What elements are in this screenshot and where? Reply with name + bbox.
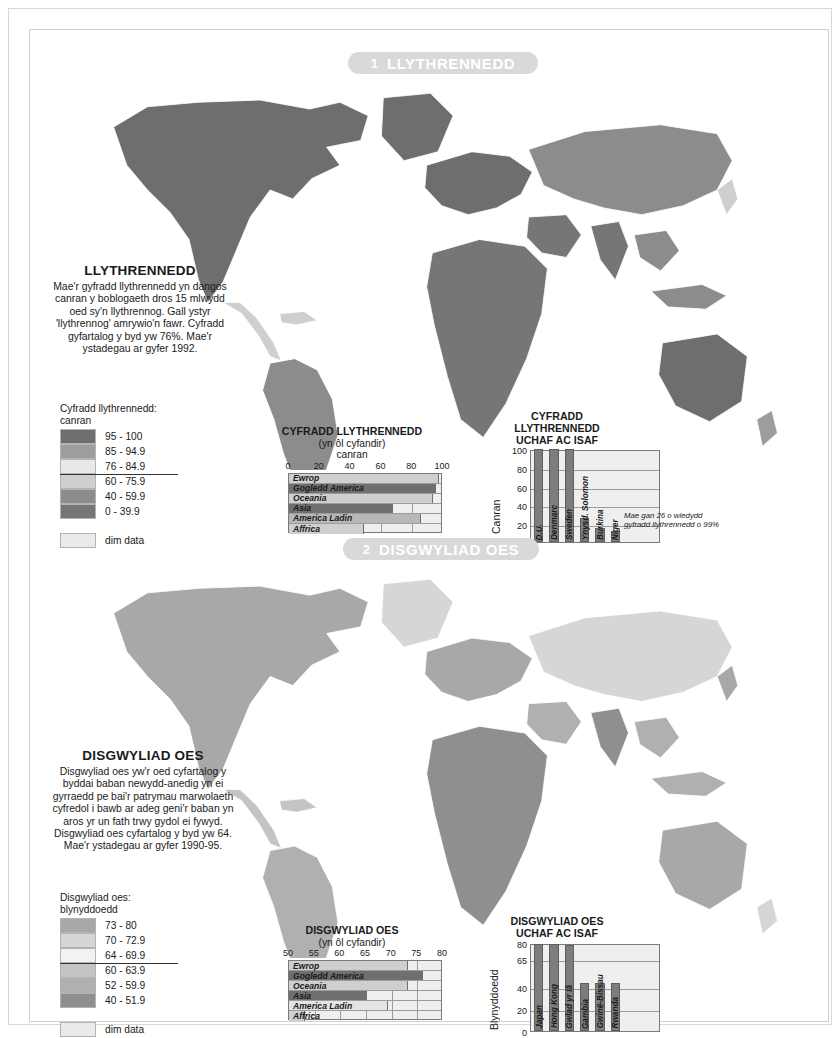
chart0-unit: canran [258,449,446,460]
chart-bar-label: Burkina [596,529,605,540]
literacy-legend-title: Cyfradd llythrennedd: canran [60,403,230,426]
map-region-africa [427,239,548,437]
chart-bar-row: Oceania [289,981,441,991]
section-2-number: 2 [363,542,370,557]
chart-bar-label: America Ladin [293,1001,352,1011]
map-region-india [591,221,629,279]
legend-item: 95 - 100 [60,429,230,444]
section-1-banner: 1 LLYTHRENNEDD [348,52,538,74]
legend-item: 76 - 84.9 [60,459,230,474]
axis-tick: 70 [386,948,396,958]
legend-item: 60 - 63.9 [60,963,230,978]
chart-bar-label: Hong Kong [550,984,559,1028]
axis-tick: 40 [509,502,527,512]
legend-swatch [60,489,96,504]
legend-item: 85 - 94.9 [60,444,230,459]
axis-tick: 0 [285,461,290,471]
chart-bar-label: Oceania [293,493,326,503]
axis-tick: 65 [509,956,527,966]
chart-literacy-by-continent: CYFRADD LLYTHRENNEDD (yn ôl cyfandir) ca… [258,426,446,533]
nodata-swatch [60,1022,96,1037]
chart-bar-row: America Ladin [289,514,441,524]
map-region-se-asia [634,717,679,758]
legend-swatch [60,444,96,459]
life-expectancy-description: DISGWYLIAD OES Disgwyliad oes yw'r oed c… [48,748,238,853]
legend-swatch [60,993,96,1008]
chart-bar-row: Affrica [289,524,441,534]
legend-item: 52 - 59.9 [60,978,230,993]
legend-item: 60 - 75.9 [60,474,230,489]
chart1-title-1: CYFRADD LLYTHRENNEDD [492,411,622,435]
map-region-se-asia [634,230,679,270]
chart0-title: CYFRADD LLYTHRENNEDD [258,426,446,438]
chart-bar-label: Affrica [293,524,320,534]
map-region-australia [659,821,748,909]
chart-bar-label: Asia [293,991,311,1001]
axis-tick: 20 [509,1006,527,1016]
legend-label: 0 - 39.9 [105,506,140,517]
map-region-europe [425,638,533,701]
life-legend-rows: 73 - 8070 - 72.964 - 69.960 - 63.952 - 5… [60,918,230,1008]
legend-label: 40 - 59.9 [105,491,145,502]
literacy-legend: Cyfradd llythrennedd: canran 95 - 10085 … [60,403,230,548]
life-expectancy-legend: Disgwyliad oes: blynyddoedd 73 - 8070 - … [60,892,230,1037]
legend-swatch [60,933,96,948]
axis-tick: 65 [360,948,370,958]
map-region-new-zealand [757,410,778,446]
axis-tick: 100 [509,446,527,456]
axis-tick: 80 [509,940,527,950]
section-1-number: 1 [371,56,378,71]
nodata-label: dim data [105,535,144,546]
chart-bar-row: Ewrop [289,961,441,971]
outer-border: 1 LLYTHRENNEDD LLYTHRENNEDD Mae'r gyfrad… [8,8,832,1025]
axis-tick: 75 [411,948,421,958]
axis-tick: 50 [283,948,293,958]
legend-item: 73 - 80 [60,918,230,933]
legend-label: 40 - 51.9 [105,995,145,1006]
map-region-asia [529,611,733,701]
legend-label: 76 - 84.9 [105,461,145,472]
axis-tick: 60 [509,484,527,494]
literacy-nodata-row: dim data [60,533,230,548]
chart-literacy-high-low: CYFRADD LLYTHRENNEDD UCHAF AC ISAF Canra… [492,411,622,546]
map-region-europe [425,152,533,215]
legend-label: 52 - 59.9 [105,980,145,991]
chart1-title-2: UCHAF AC ISAF [492,435,622,447]
section-2-banner: 2 DISGWYLIAD OES [343,538,539,560]
map-region-caribbean [280,311,318,324]
legend-item: 40 - 51.9 [60,993,230,1008]
chart-bar-label: Asia [293,503,311,513]
axis-tick: 80 [437,948,447,958]
legend-label: 70 - 72.9 [105,935,145,946]
chart-bar-label: Ewrop [293,961,319,971]
legend-label: 60 - 63.9 [105,965,145,976]
chart-bar-label: Gambia [581,999,590,1029]
chart-bar-label: Niger [611,532,620,540]
literacy-body: Mae'r gyfradd llythrennedd yn dangos can… [48,281,232,355]
chart3-title-2: UCHAF AC ISAF [492,928,622,940]
legend-label: 85 - 94.9 [105,446,145,457]
axis-tick: 0 [509,1028,527,1038]
map-region-asia [529,125,733,215]
chart-bar-row: America Ladin [289,1001,441,1011]
map-region-middle-east [527,215,582,258]
map-region-new-zealand [757,898,778,934]
chart-bar-row: Asia [289,504,441,514]
nodata-swatch [60,533,96,548]
literacy-legend-rows: 95 - 10085 - 94.976 - 84.960 - 75.940 - … [60,429,230,519]
chart3-plot: 020406580JapanHong KongGwlad yr IâGambia… [530,944,660,1032]
axis-tick: 55 [309,948,319,958]
legend-swatch [60,963,96,978]
chart-bar-label: Japan [535,1005,544,1029]
chart-bar-row: Affrica [289,1011,441,1021]
chart0-subtitle: (yn ôl cyfandir) [258,438,446,449]
chart-bar-label: D.U. [535,524,544,540]
map-region-australia [659,334,748,422]
chart-life-high-low: DISGWYLIAD OES UCHAF AC ISAF Blynyddoedd… [492,916,622,1036]
legend-swatch [60,948,96,963]
axis-tick: 40 [509,984,527,994]
legend-item: 64 - 69.9 [60,948,230,963]
literacy-description: LLYTHRENNEDD Mae'r gyfradd llythrennedd … [48,263,232,355]
life-legend-title: Disgwyliad oes: blynyddoedd [60,892,230,915]
